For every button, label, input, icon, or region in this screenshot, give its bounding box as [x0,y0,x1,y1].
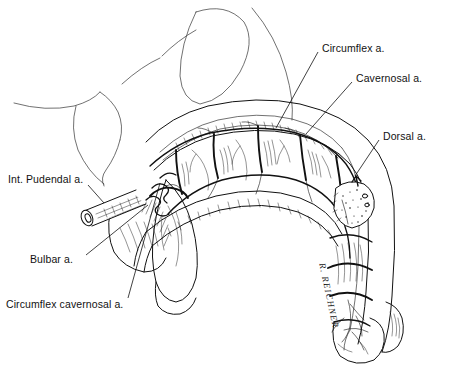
int-pudendal-stump [79,190,152,227]
label-circumflex-cavernosal-artery: Circumflex cavernosal a. [6,298,123,310]
leader-int-pudendal [88,185,104,203]
leader-cavernosal [306,82,352,134]
label-internal-pudendal-artery: Int. Pudendal a. [8,173,83,185]
pubic-symphysis-outline [14,58,160,186]
leader-circumflex [276,52,318,128]
cut-window-cavernosal [332,176,374,228]
leader-dorsal [355,140,379,176]
label-cavernosal-artery: Cavernosal a. [356,72,422,84]
bladder-oval-outline [162,8,292,120]
label-dorsal-artery: Dorsal a. [383,130,426,142]
pendulous-lobe [152,180,197,314]
illustration-canvas: .s { fill:none; stroke:#111; stroke-widt… [0,0,460,374]
anatomical-figure: .s { fill:none; stroke:#111; stroke-widt… [0,0,460,374]
label-bulbar-artery: Bulbar a. [30,253,73,265]
label-circumflex-artery: Circumflex a. [322,42,385,54]
leader-lines [86,52,379,298]
